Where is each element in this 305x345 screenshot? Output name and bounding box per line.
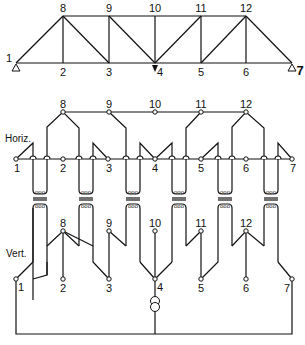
truss-node-7: 7: [296, 64, 303, 77]
transformer-icon: ooo ooo: [218, 170, 232, 246]
horiz-node-4: 4: [152, 163, 158, 174]
horiz-node-1: 1: [14, 163, 20, 174]
horizontal-network: [14, 110, 294, 170]
horiz-node-10: 10: [149, 99, 161, 110]
vert-node-8: 8: [60, 218, 66, 229]
vert-node-5: 5: [198, 283, 204, 294]
vert-node-9: 9: [106, 218, 112, 229]
vert-node-2: 2: [60, 283, 66, 294]
svg-text:ooo: ooo: [81, 189, 92, 195]
horiz-node-5: 5: [198, 163, 204, 174]
truss-node-11: 11: [195, 3, 206, 14]
truss-node-8: 8: [60, 3, 66, 14]
vert-node-7: 7: [284, 283, 290, 294]
svg-text:ooo: ooo: [81, 203, 92, 209]
svg-text:ooo: ooo: [174, 203, 185, 209]
vert-node-10: 10: [149, 218, 161, 229]
truss-node-10: 10: [149, 3, 161, 14]
truss: [12, 16, 296, 72]
transformer-icon: ooo ooo: [79, 170, 93, 246]
svg-text:ooo: ooo: [128, 203, 139, 209]
vert-node-11: 11: [195, 218, 206, 229]
svg-text:ooo: ooo: [128, 189, 139, 195]
svg-text:ooo: ooo: [220, 189, 231, 195]
vert-node-1: 1: [18, 282, 24, 293]
horiz-node-3: 3: [106, 163, 112, 174]
vert-label: Vert.: [6, 248, 27, 259]
truss-node-2: 2: [60, 67, 66, 78]
svg-text:ooo: ooo: [220, 203, 231, 209]
transformer-icon: ooo ooo: [33, 170, 47, 300]
horiz-node-6: 6: [243, 163, 249, 174]
svg-text:ooo: ooo: [266, 189, 277, 195]
transformer-icon: ooo ooo: [126, 170, 140, 262]
vert-node-4: 4: [157, 282, 163, 293]
horiz-node-7: 7: [290, 163, 296, 174]
svg-text:ooo: ooo: [35, 203, 46, 209]
truss-node-5: 5: [198, 67, 204, 78]
truss-node-1: 1: [6, 53, 12, 64]
truss-node-4: 4: [157, 67, 163, 78]
transformer-icon: ooo ooo: [172, 170, 186, 262]
truss-node-12: 12: [240, 3, 252, 14]
svg-text:ooo: ooo: [35, 189, 46, 195]
transformer-icon: ooo ooo: [264, 170, 278, 262]
horiz-node-8: 8: [60, 99, 66, 110]
svg-text:ooo: ooo: [266, 203, 277, 209]
truss-node-6: 6: [243, 67, 249, 78]
horiz-node-2: 2: [60, 163, 66, 174]
vert-node-3: 3: [106, 283, 112, 294]
horiz-node-9: 9: [106, 99, 112, 110]
truss-node-9: 9: [106, 3, 112, 14]
truss-node-3: 3: [106, 67, 112, 78]
support-icon: [288, 64, 296, 71]
svg-text:ooo: ooo: [174, 189, 185, 195]
horiz-node-11: 11: [195, 99, 206, 110]
vert-node-12: 12: [240, 218, 252, 229]
support-icon: [12, 64, 20, 71]
horiz-node-12: 12: [240, 99, 252, 110]
vert-node-6: 6: [243, 283, 249, 294]
horiz-label: Horiz.: [5, 133, 31, 144]
